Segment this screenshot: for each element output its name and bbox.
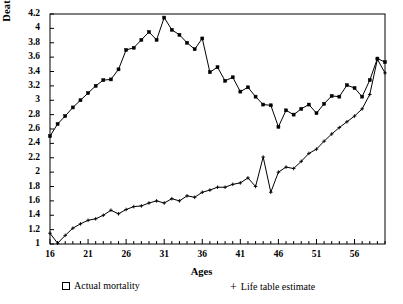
x-tick-label: 41 xyxy=(225,250,255,260)
y-tick-label: 1.4 xyxy=(2,210,40,220)
x-tick-label: 56 xyxy=(340,250,370,260)
plus-sign-icon: + xyxy=(230,281,237,293)
y-tick-label: 3.4 xyxy=(2,67,40,77)
x-tick-label: 36 xyxy=(187,250,217,260)
y-tick-marks xyxy=(50,14,54,244)
legend-label-actual-mortality: Actual mortality xyxy=(74,281,140,291)
x-tick-label: 16 xyxy=(35,250,65,260)
y-tick-label: 4.2 xyxy=(2,9,40,19)
y-tick-label: 2.4 xyxy=(2,138,40,148)
y-tick-label: 4 xyxy=(2,23,40,33)
x-axis-title: Ages xyxy=(0,266,403,277)
series-life-table-estimate xyxy=(48,57,387,245)
open-square-icon xyxy=(62,282,70,290)
y-tick-label: 3.8 xyxy=(2,38,40,48)
y-tick-label: 3 xyxy=(2,95,40,105)
x-tick-label: 31 xyxy=(149,250,179,260)
x-tick-label: 51 xyxy=(301,250,331,260)
series-actual-mortality xyxy=(49,16,387,138)
legend-item-actual-mortality: Actual mortality xyxy=(62,281,140,291)
x-tick-marks xyxy=(50,239,385,244)
y-tick-label: 2.2 xyxy=(2,153,40,163)
y-tick-label: 2.8 xyxy=(2,110,40,120)
y-tick-label: 3.2 xyxy=(2,81,40,91)
legend-item-life-table-estimate: + Life table estimate xyxy=(230,281,315,293)
y-tick-label: 2 xyxy=(2,167,40,177)
y-tick-label: 1 xyxy=(2,239,40,249)
y-tick-label: 1.6 xyxy=(2,196,40,206)
y-axis-tick-labels: 4.243.83.63.43.232.82.62.42.221.81.61.41… xyxy=(0,0,40,304)
x-tick-label: 46 xyxy=(263,250,293,260)
y-tick-label: 1.2 xyxy=(2,225,40,235)
mortality-line-chart: Deaths (thousands) 4.243.83.63.43.232.82… xyxy=(0,0,403,304)
axis-lines xyxy=(50,14,385,244)
legend-label-life-table-estimate: Life table estimate xyxy=(241,282,315,292)
x-tick-label: 21 xyxy=(73,250,103,260)
x-tick-label: 26 xyxy=(111,250,141,260)
y-tick-label: 2.6 xyxy=(2,124,40,134)
y-tick-label: 1.8 xyxy=(2,182,40,192)
y-tick-label: 3.6 xyxy=(2,52,40,62)
chart-legend: Actual mortality + Life table estimate xyxy=(0,281,403,297)
